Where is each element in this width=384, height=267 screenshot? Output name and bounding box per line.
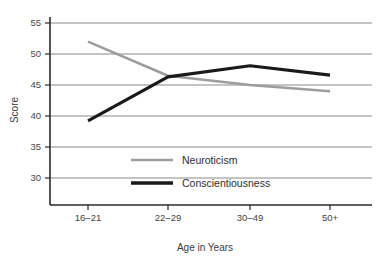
x-tick-label: 50+ (322, 212, 339, 223)
y-axis-title: Score (9, 97, 20, 124)
y-tick-label: 55 (30, 17, 41, 28)
y-tick-label: 35 (30, 141, 41, 152)
y-tick-label: 40 (30, 110, 41, 121)
y-tick-label: 45 (30, 79, 41, 90)
x-tick-label: 16–21 (75, 212, 101, 223)
y-tick-label: 50 (30, 48, 41, 59)
x-tick-label: 30–49 (237, 212, 263, 223)
x-axis-title: Age in Years (177, 242, 233, 253)
line-chart: 303540455055 16–2122–2930–4950+ Neurotic… (0, 0, 384, 267)
chart-container: 303540455055 16–2122–2930–4950+ Neurotic… (0, 0, 384, 267)
chart-background (0, 0, 384, 267)
legend-label-neuroticism: Neuroticism (182, 154, 238, 166)
legend-label-conscientiousness: Conscientiousness (182, 177, 270, 189)
x-tick-label: 22–29 (155, 212, 181, 223)
y-tick-label: 30 (30, 172, 41, 183)
